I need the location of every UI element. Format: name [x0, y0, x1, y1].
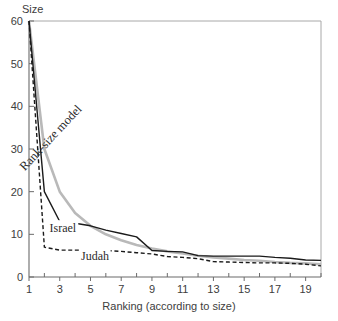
x-axis-title: Ranking (according to size)	[0, 300, 338, 312]
chart-plot-area: 0102030405060 135791113151719 Rank-size …	[0, 0, 338, 321]
x-axis-ticks: 135791113151719	[26, 273, 321, 295]
x-tick-label: 1	[26, 283, 32, 295]
y-tick-label: 10	[11, 228, 23, 240]
series-annotation-rank-size-model: Rank-size model	[17, 102, 85, 174]
x-tick-label: 5	[87, 283, 93, 295]
annotation-layer: Rank-size modelIsraelJudah	[17, 102, 111, 264]
plot-frame	[29, 21, 321, 277]
x-tick-label: 11	[177, 283, 188, 295]
chart-figure: Size 0102030405060 135791113151719 Rank-…	[0, 0, 338, 321]
y-tick-label: 30	[11, 143, 23, 155]
y-tick-label: 40	[11, 100, 23, 112]
series-annotation-judah: Judah	[81, 249, 109, 263]
series-annotation-israel: Israel	[49, 221, 76, 235]
y-tick-label: 50	[11, 58, 23, 70]
x-tick-label: 3	[57, 283, 63, 295]
x-tick-label: 13	[207, 283, 219, 295]
y-tick-label: 20	[11, 186, 23, 198]
x-tick-label: 15	[238, 283, 250, 295]
x-tick-label: 9	[149, 283, 155, 295]
y-tick-label: 0	[17, 271, 23, 283]
x-tick-label: 7	[118, 283, 124, 295]
x-tick-label: 19	[300, 283, 312, 295]
y-tick-label: 60	[11, 15, 23, 27]
x-tick-label: 17	[269, 283, 281, 295]
